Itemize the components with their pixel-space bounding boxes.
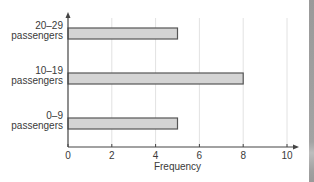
- category-label: 0–9passengers: [11, 110, 63, 131]
- x-tick-label: 8: [240, 150, 246, 161]
- bar: [68, 73, 243, 84]
- bar-chart: 0246810 0–9passengers10–19passengers20–2…: [0, 0, 314, 182]
- x-tick-label: 6: [197, 150, 203, 161]
- category-label: 10–19passengers: [11, 65, 63, 86]
- y-axis-arrow-icon: [66, 12, 71, 18]
- x-tick-label: 2: [109, 150, 115, 161]
- bar: [68, 28, 178, 39]
- page-edge-strip: [309, 0, 314, 182]
- x-axis-label: Frequency: [154, 161, 201, 172]
- category-labels: 0–9passengers10–19passengers20–29passeng…: [11, 20, 63, 131]
- x-tick-label: 4: [153, 150, 159, 161]
- category-label: 20–29passengers: [11, 20, 63, 41]
- bar: [68, 118, 178, 129]
- x-tick-label: 10: [281, 150, 293, 161]
- x-axis-arrow-icon: [293, 145, 299, 150]
- x-tick-label: 0: [65, 150, 71, 161]
